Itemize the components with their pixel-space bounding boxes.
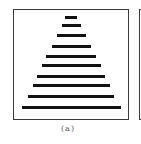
pyramid-bar-4: [52, 45, 91, 48]
pyramid-bar-10: [22, 106, 121, 109]
pyramid-bar-3: [57, 34, 86, 37]
pyramid-bar-6: [42, 64, 101, 67]
figure-caption: (a): [48, 124, 88, 133]
pyramid-bar-2: [62, 24, 81, 27]
pyramid-bar-7: [37, 75, 105, 78]
pyramid-bar-1: [65, 16, 77, 19]
adjacent-figure-frame: [139, 9, 141, 120]
pyramid-bar-9: [28, 95, 114, 98]
pyramid-bar-8: [33, 84, 110, 87]
pyramid-bar-5: [46, 55, 96, 58]
